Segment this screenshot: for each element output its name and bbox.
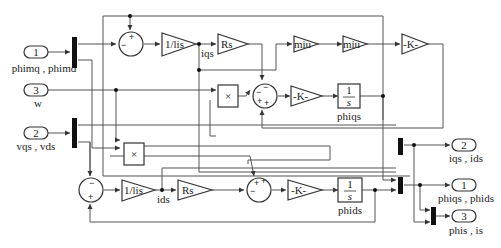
integrator-num: 1 <box>347 178 353 190</box>
sum-d2[interactable]: + + − <box>247 176 271 202</box>
gain-label: miu <box>294 38 312 50</box>
sign: + <box>257 96 262 106</box>
product-2[interactable]: × <box>124 143 144 165</box>
product-1[interactable]: × <box>218 85 238 107</box>
gain-d-inv-lis[interactable]: 1/lis <box>122 180 155 201</box>
outport-2[interactable]: 2 iqs , ids <box>449 139 483 164</box>
sign: + <box>264 98 269 108</box>
gain-miu-2[interactable]: miu <box>343 36 367 52</box>
sign: − <box>263 82 268 92</box>
gain-label: -K- <box>293 90 309 102</box>
gain-k-top[interactable]: -K- <box>402 34 428 54</box>
gain-label: 1/lis <box>124 184 143 196</box>
integrator-den: s <box>348 190 352 202</box>
integrator-phiqs[interactable]: 1 s phiqs <box>337 84 361 122</box>
integrator-label: phiqs <box>337 110 361 122</box>
mux-phis-is[interactable] <box>431 207 436 225</box>
simulink-diagram: 1 phimq , phimd 3 w 2 vqs , vds + − − − … <box>0 0 501 248</box>
inport-2[interactable]: 2 vqs , vds <box>17 127 56 152</box>
product-symbol: × <box>131 148 137 160</box>
outport-number: 2 <box>461 139 467 151</box>
inport-3-number: 3 <box>33 84 39 96</box>
integrator-num: 1 <box>346 84 352 96</box>
gain-label: -K- <box>403 38 419 50</box>
sum-q1[interactable]: + − <box>119 32 143 56</box>
sign: − <box>121 40 126 50</box>
signal-label-iqs: iqs <box>201 47 214 59</box>
mux-phis[interactable] <box>398 177 403 194</box>
gain-label: miu <box>343 38 361 50</box>
sum-q2[interactable]: − − + + <box>253 82 277 108</box>
inport-2-label: vqs , vds <box>17 140 56 152</box>
outport-label: phis , is <box>449 224 483 236</box>
gain-k-q[interactable]: -K- <box>291 86 322 106</box>
gain-label: Rs <box>221 38 233 50</box>
inport-1[interactable]: 1 phimq , phimd <box>12 46 77 74</box>
mux-is[interactable] <box>398 138 403 155</box>
sign: − <box>89 178 94 188</box>
inport-2-number: 2 <box>33 127 39 139</box>
gain-q-inv-lis[interactable]: 1/lis <box>162 33 196 56</box>
demux-phim[interactable] <box>72 37 77 68</box>
sign: − <box>250 186 255 196</box>
integrator-den: s <box>347 96 351 108</box>
gain-miu-1[interactable]: miu <box>294 36 318 52</box>
inport-3[interactable]: 3 w <box>24 84 48 109</box>
sign: + <box>88 192 93 202</box>
inport-3-label: w <box>34 97 42 109</box>
sign: + <box>129 32 134 42</box>
demux-vs[interactable] <box>72 118 77 148</box>
outport-3[interactable]: 3 phis , is <box>449 210 483 236</box>
outport-number: 3 <box>461 210 467 222</box>
sign: + <box>261 176 266 186</box>
gain-d-rs[interactable]: Rs <box>178 180 212 200</box>
product-symbol: × <box>225 90 231 102</box>
outport-1[interactable]: 1 phiqs , phids <box>438 179 494 204</box>
inport-1-number: 1 <box>33 46 39 58</box>
gain-label: 1/lis <box>165 38 184 50</box>
integrator-label: phids <box>338 204 362 216</box>
integrator-phids[interactable]: 1 s phids <box>338 178 362 216</box>
gain-q-rs[interactable]: Rs <box>218 34 248 54</box>
outport-label: phiqs , phids <box>438 192 494 204</box>
inport-1-label: phimq , phimd <box>12 62 77 74</box>
gain-label: -K- <box>291 184 307 196</box>
sum-d1[interactable]: − + <box>79 178 103 202</box>
outport-label: iqs , ids <box>449 152 483 164</box>
gain-k-d[interactable]: -K- <box>288 180 322 200</box>
signal-label-ids: ids <box>157 193 170 205</box>
gain-label: Rs <box>182 184 194 196</box>
outport-number: 1 <box>461 179 467 191</box>
